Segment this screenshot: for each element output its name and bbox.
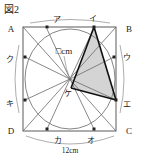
point-marker-o-pt	[93, 128, 96, 131]
point-marker-e-pt	[115, 99, 118, 102]
corner-label-a: A	[8, 24, 15, 34]
radius-to-ku-pt	[25, 57, 70, 79]
circle-point-label-ka-pt: カ	[54, 136, 62, 145]
point-marker-i-pt	[93, 26, 96, 29]
corner-label-d: D	[8, 126, 15, 136]
figure-container: 図2	[0, 0, 141, 157]
circle-point-label-i-pt: イ	[89, 14, 97, 23]
circle-point-label-u-pt: ウ	[123, 53, 131, 62]
point-marker-ka-pt	[46, 128, 49, 131]
circle-point-label-e-pt: エ	[123, 100, 131, 109]
arc-left	[15, 45, 19, 113]
arc-bottom-dimension	[26, 136, 114, 144]
point-marker-ki-pt	[24, 99, 27, 102]
arc-top	[30, 20, 110, 24]
circle-point-label-a-pt: ア	[53, 15, 61, 24]
circle-point-label-ku-pt: ク	[6, 55, 14, 64]
corner-label-c: C	[126, 126, 132, 136]
radius-to-ka-pt	[47, 79, 70, 129]
unknown-measure-label: □cm	[56, 46, 72, 56]
center-point-label: ケ	[64, 89, 72, 98]
circle-point-label-o-pt: オ	[87, 136, 95, 145]
point-marker-u-pt	[113, 56, 116, 59]
point-marker-ku-pt	[24, 56, 27, 59]
circle-point-label-ki-pt: キ	[6, 99, 14, 108]
corner-label-b: B	[126, 24, 132, 34]
point-marker-a-pt	[46, 26, 49, 29]
geometry-diagram: A B C D ア イ ウ エ オ カ キ ク ケ □cm 12cm	[0, 0, 141, 157]
dimension-label-bottom: 12cm	[62, 146, 79, 155]
